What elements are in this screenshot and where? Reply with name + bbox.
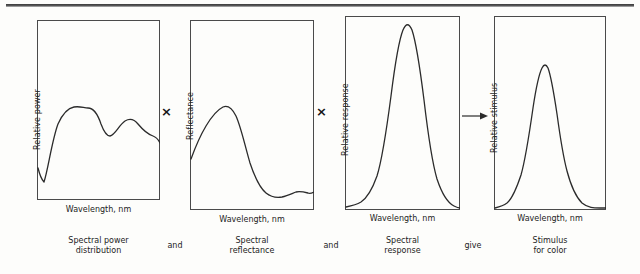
curve-relative-power: [37, 20, 160, 200]
panel-spectral-power-distribution: [37, 20, 160, 200]
xlabel-panel-4: Wavelength, nm: [494, 214, 606, 223]
xlabel-panel-3: Wavelength, nm: [345, 214, 460, 223]
caption-spectral-response: Spectral response: [345, 236, 460, 256]
xlabel-panel-2: Wavelength, nm: [190, 215, 314, 224]
operator-times-1: ×: [161, 105, 172, 118]
curve-relative-response: [345, 16, 460, 210]
curve-reflectance: [190, 20, 314, 210]
panel-spectral-response: [345, 16, 460, 210]
caption-spectral-reflectance: Spectral reflectance: [190, 236, 314, 256]
xlabel-panel-1: Wavelength, nm: [37, 205, 160, 214]
operator-times-2: ×: [316, 105, 327, 118]
connector-and-1: and: [155, 241, 195, 251]
panel-spectral-reflectance: [190, 20, 314, 210]
top-horizontal-rule: [6, 4, 634, 7]
panel-stimulus-for-color: [494, 16, 606, 210]
caption-stimulus-for-color: Stimulus for color: [494, 236, 606, 256]
ylabel-relative-power: Relative power: [33, 89, 42, 150]
arrow-right-icon: [462, 111, 488, 121]
ylabel-relative-stimulus: Relative stimulus: [490, 83, 499, 153]
connector-give: give: [453, 241, 493, 251]
curve-relative-stimulus: [494, 16, 606, 210]
figure-root: Relative power Wavelength, nm × Reflecta…: [0, 0, 640, 274]
ylabel-relative-response: Relative response: [341, 83, 350, 156]
caption-spectral-power-distribution: Spectral power distribution: [32, 236, 165, 256]
ylabel-reflectance: Reflectance: [186, 92, 195, 140]
